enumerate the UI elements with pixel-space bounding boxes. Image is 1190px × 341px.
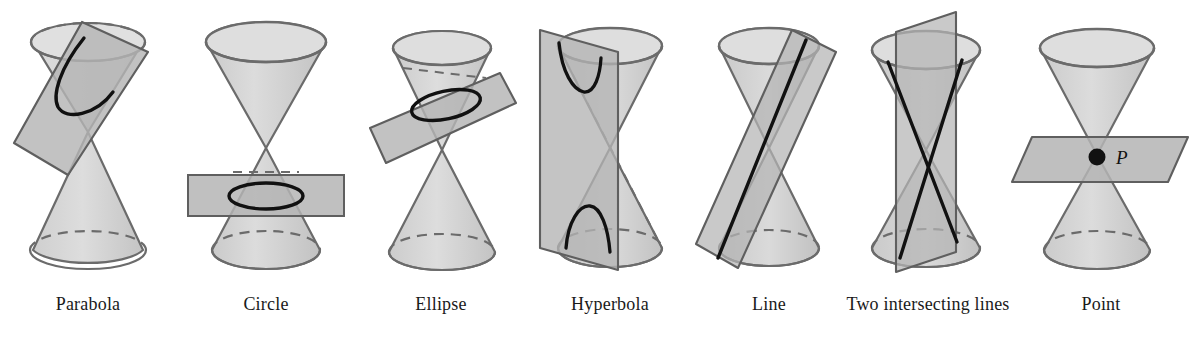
panel-label-point: Point bbox=[1081, 295, 1120, 313]
circle-figure bbox=[176, 0, 356, 278]
ellipse-figure bbox=[356, 0, 526, 278]
point-label-P: P bbox=[1115, 147, 1128, 168]
line-figure bbox=[694, 0, 844, 278]
panel-label-line: Line bbox=[752, 295, 786, 313]
panel-hyperbola: Hyperbola bbox=[526, 0, 694, 341]
panel-ellipse: Ellipse bbox=[356, 0, 526, 341]
panel-line: Line bbox=[694, 0, 844, 341]
point-figure: P bbox=[1012, 0, 1190, 278]
panel-circle: Circle bbox=[176, 0, 356, 341]
hyperbola-figure bbox=[526, 0, 694, 278]
panel-label-hyperbola: Hyperbola bbox=[571, 295, 649, 313]
conic-sections-figure: Parabola bbox=[0, 0, 1190, 341]
panel-two-intersecting-lines: Two intersecting lines bbox=[844, 0, 1012, 341]
cutting-plane bbox=[896, 12, 956, 272]
panel-label-ellipse: Ellipse bbox=[415, 295, 466, 313]
two-intersecting-lines-figure bbox=[844, 0, 1012, 278]
parabola-figure bbox=[0, 0, 176, 278]
apex-point-marker bbox=[1089, 149, 1106, 166]
cone-lower-nappe bbox=[389, 150, 495, 270]
panel-point: P Point bbox=[1012, 0, 1190, 341]
panel-label-two-intersecting-lines: Two intersecting lines bbox=[846, 295, 1009, 313]
cone-upper-nappe bbox=[206, 22, 326, 148]
panel-parabola: Parabola bbox=[0, 0, 176, 341]
panel-label-parabola: Parabola bbox=[56, 295, 121, 313]
panel-label-circle: Circle bbox=[243, 295, 288, 313]
